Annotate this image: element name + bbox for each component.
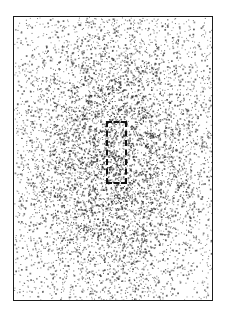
figure-root (0, 0, 231, 320)
plot-frame (13, 16, 213, 301)
stipple-point-cloud (14, 17, 213, 301)
